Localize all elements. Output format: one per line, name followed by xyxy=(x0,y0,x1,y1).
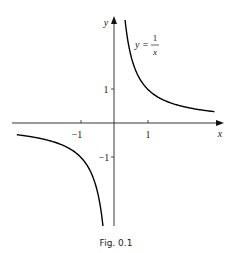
equation-denominator: x xyxy=(152,47,157,57)
y-tick-label-neg1: −1 xyxy=(99,152,110,163)
curve-negative-branch xyxy=(17,135,103,226)
y-axis-label: y xyxy=(103,17,109,28)
x-axis-label: x xyxy=(217,128,223,139)
equation-numerator: 1 xyxy=(153,33,158,43)
curve-positive-branch xyxy=(125,20,214,112)
figure-caption: Fig. 0.1 xyxy=(100,238,133,248)
x-axis-arrow-icon xyxy=(216,120,224,126)
equation-lhs: y = xyxy=(134,39,149,50)
graph-figure: −1 1 1 −1 x y y = 1 x Fig. 0.1 xyxy=(0,0,233,253)
y-tick-label-1: 1 xyxy=(104,84,109,95)
x-tick-label-1: 1 xyxy=(146,129,151,140)
x-tick-label-neg1: −1 xyxy=(72,129,83,140)
y-axis-arrow-icon xyxy=(111,16,117,24)
